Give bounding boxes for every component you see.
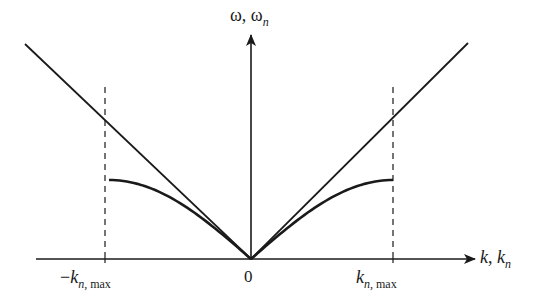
omega-axis-label: ω, ωn [230,6,269,24]
linear-line-left [25,44,251,259]
tick-label-zero: 0 [244,268,253,285]
k-axis-label: k, kn [480,248,511,266]
tick-label-negative-kmax: −kn, max [60,268,111,286]
dispersion-diagram [0,0,535,305]
linear-line-right [251,43,468,259]
tick-label-positive-kmax: kn, max [356,268,397,286]
lattice-curve-right [251,180,393,259]
